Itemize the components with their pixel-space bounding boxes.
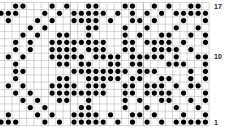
- stitch-dot: [93, 40, 98, 45]
- stitch-dot: [57, 47, 62, 52]
- stitch-dot: [115, 119, 120, 124]
- stitch-dot: [86, 18, 91, 23]
- stitch-dot: [28, 47, 33, 52]
- stitch-dot: [159, 54, 164, 59]
- stitch-dot: [123, 3, 128, 8]
- stitch-dot: [159, 76, 164, 81]
- stitch-dot: [50, 112, 55, 117]
- stitch-dot: [13, 40, 18, 45]
- stitch-dot: [123, 105, 128, 110]
- stitch-dot: [130, 76, 135, 81]
- stitch-dot: [20, 69, 25, 74]
- stitch-dot: [159, 83, 164, 88]
- stitch-dot: [13, 3, 18, 8]
- stitch-dot: [57, 119, 62, 124]
- stitch-dot: [86, 40, 91, 45]
- stitch-dot: [86, 119, 91, 124]
- stitch-dot: [35, 32, 40, 37]
- stitch-dot: [13, 119, 18, 124]
- stitch-dot: [13, 11, 18, 16]
- stitch-dot: [64, 47, 69, 52]
- stitch-dot: [144, 119, 149, 124]
- stitch-dot: [86, 69, 91, 74]
- stitch-dot: [137, 98, 142, 103]
- stitch-dot: [57, 61, 62, 66]
- stitch-dot: [181, 90, 186, 95]
- stitch-dot: [159, 98, 164, 103]
- stitch-dot: [152, 54, 157, 59]
- stitch-dot: [86, 3, 91, 8]
- stitch-dot: [13, 69, 18, 74]
- stitch-dot: [101, 47, 106, 52]
- stitch-dot: [137, 69, 142, 74]
- stitch-dot: [57, 83, 62, 88]
- stitch-dot: [108, 18, 113, 23]
- stitch-dot: [130, 40, 135, 45]
- stitch-dot: [123, 47, 128, 52]
- stitch-dot: [159, 32, 164, 37]
- stitch-dot: [50, 40, 55, 45]
- stitch-dot: [123, 69, 128, 74]
- stitch-dot: [86, 32, 91, 37]
- stitch-dot: [152, 90, 157, 95]
- stitch-dot: [159, 90, 164, 95]
- stitch-dot: [6, 11, 11, 16]
- stitch-dot: [152, 69, 157, 74]
- stitch-dot: [71, 40, 76, 45]
- stitch-dot: [188, 47, 193, 52]
- stitch-dot: [57, 54, 62, 59]
- stitch-dot: [174, 47, 179, 52]
- stitch-dot: [203, 90, 208, 95]
- stitch-dot: [0, 11, 4, 16]
- stitch-dot: [188, 119, 193, 124]
- stitch-dot: [0, 119, 4, 124]
- stitch-dot: [166, 98, 171, 103]
- stitch-dot: [50, 18, 55, 23]
- stitch-dot: [203, 112, 208, 117]
- stitch-dot: [123, 98, 128, 103]
- stitch-dot: [71, 90, 76, 95]
- stitch-dot: [64, 61, 69, 66]
- stitch-dot: [86, 25, 91, 30]
- stitch-dot: [101, 90, 106, 95]
- stitch-dot: [13, 90, 18, 95]
- stitch-dot: [152, 83, 157, 88]
- stitch-dot: [115, 76, 120, 81]
- stitch-dot: [196, 25, 201, 30]
- stitch-dot: [115, 69, 120, 74]
- row-label: 17: [214, 3, 222, 10]
- stitch-dot: [71, 69, 76, 74]
- stitch-dot: [144, 25, 149, 30]
- stitch-dot: [108, 61, 113, 66]
- stitch-dot: [144, 40, 149, 45]
- stitch-dot: [20, 83, 25, 88]
- stitch-dot: [203, 76, 208, 81]
- stitch-dot: [123, 90, 128, 95]
- stitch-dot: [130, 18, 135, 23]
- stitch-dot: [203, 119, 208, 124]
- stitch-dot: [166, 61, 171, 66]
- stitch-dot: [137, 32, 142, 37]
- stitch-dot: [35, 18, 40, 23]
- stitch-dot: [108, 112, 113, 117]
- stitch-dot: [174, 119, 179, 124]
- stitch-dot: [152, 112, 157, 117]
- stitch-dot: [181, 119, 186, 124]
- stitch-dot: [93, 83, 98, 88]
- stitch-dot: [28, 90, 33, 95]
- stitch-dot: [93, 47, 98, 52]
- stitch-dot: [196, 105, 201, 110]
- stitch-dot: [137, 112, 142, 117]
- stitch-dot: [196, 83, 201, 88]
- stitch-dot: [71, 119, 76, 124]
- stitch-dot: [71, 11, 76, 16]
- stitch-dot: [174, 54, 179, 59]
- stitch-dot: [166, 40, 171, 45]
- stitch-dot: [35, 98, 40, 103]
- stitch-dot: [144, 83, 149, 88]
- stitch-dot: [137, 54, 142, 59]
- stitch-dot: [93, 54, 98, 59]
- stitch-dot: [166, 32, 171, 37]
- stitch-dot: [174, 105, 179, 110]
- stitch-dot: [86, 98, 91, 103]
